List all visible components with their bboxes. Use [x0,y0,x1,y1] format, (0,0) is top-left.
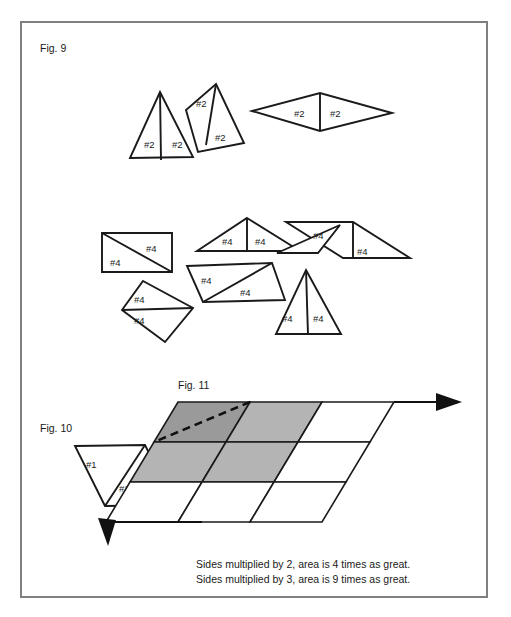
mark-label: #2 [144,139,155,150]
mark-label: #4 [357,246,368,257]
fig11-label: Fig. 11 [178,379,209,391]
triangle-divider [160,92,161,160]
mark-label: #4 [255,236,266,247]
arrow-down [98,518,202,546]
mark-label: #4 [146,243,157,254]
mark-label: #4 [313,230,324,241]
caption-line-1: Sides multiplied by 2, area is 4 times a… [196,558,410,570]
mark-label: #1 [86,459,97,470]
shape-triangle-pair-d [197,218,300,252]
shape-triangle-pair-a [130,92,193,160]
mark-label: #4 [134,294,145,305]
fig10-label: Fig. 10 [40,422,72,434]
mark-label: #4 [134,315,145,326]
arrow-right [394,393,462,411]
mark-label: #4 [201,275,212,286]
fig11-grid [106,402,394,522]
triangle-outline [197,218,300,251]
fig9-label: Fig. 9 [40,42,66,54]
mark-label: #4 [282,313,293,324]
shape-kite-pair [122,281,193,342]
mark-label: #4 [313,313,324,324]
mark-label: #2 [172,139,183,150]
mark-label: #2 [215,132,226,143]
mark-label: #2 [196,98,207,109]
caption-line-2: Sides multiplied by 3, area is 9 times a… [196,573,410,585]
arrow-right-head [436,393,462,411]
shape-diamond-pair-c [252,93,392,131]
figure-panel: Fig. 9 #2 #2 #2 #2 #2 #2 [0,0,511,617]
kite-outline [122,281,193,342]
diamond-outline [252,93,392,131]
mark-label: #4 [110,257,121,268]
mark-label: #2 [294,108,305,119]
mark-label: #2 [330,108,341,119]
shape-triangle-pair-e [276,270,341,335]
mark-label: #4 [240,287,251,298]
mark-label: #4 [222,236,233,247]
arrow-down-head [98,518,116,546]
